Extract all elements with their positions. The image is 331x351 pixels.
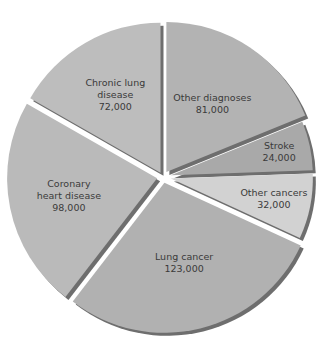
slice-label-line: Other cancers bbox=[240, 187, 307, 198]
slice-label-line: Other diagnoses bbox=[173, 92, 251, 103]
slice-label-line: Chronic lung bbox=[85, 77, 145, 88]
slice-label-line: Stroke bbox=[264, 140, 294, 151]
slice-label-line: 72,000 bbox=[99, 101, 132, 112]
slice-label-line: Lung cancer bbox=[155, 251, 213, 262]
slice-label-line: heart disease bbox=[37, 190, 102, 201]
pie-chart: Other diagnoses81,000Stroke24,000Other c… bbox=[0, 0, 331, 351]
slice-label-line: 123,000 bbox=[164, 263, 203, 274]
slice-label-stroke: Stroke24,000 bbox=[262, 140, 295, 163]
slice-label-line: 32,000 bbox=[257, 199, 290, 210]
slice-label-line: 81,000 bbox=[196, 104, 229, 115]
slice-label-line: 24,000 bbox=[262, 152, 295, 163]
slice-label-line: Coronary bbox=[47, 178, 91, 189]
slice-label-line: 98,000 bbox=[52, 202, 85, 213]
slice-label-line: disease bbox=[97, 89, 133, 100]
